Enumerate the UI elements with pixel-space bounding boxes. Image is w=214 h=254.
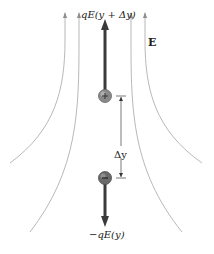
separation-dimension <box>116 96 126 178</box>
arrowhead-icon <box>143 12 147 18</box>
negative-charge <box>99 172 112 185</box>
field-label: E <box>148 36 156 49</box>
separation-label: Δy <box>114 149 127 160</box>
field-line-inner-left <box>30 13 79 232</box>
dipole-field-svg <box>0 0 214 254</box>
field-line-outer-left <box>10 13 65 163</box>
dipole-diagram: qE(y + Δy) E Δy −qE(y) <box>0 0 214 254</box>
top-force-arrow <box>101 19 109 90</box>
bottom-force-arrow <box>101 184 109 227</box>
top-force-label: qE(y + Δy) <box>81 9 136 20</box>
positive-charge <box>99 90 112 103</box>
field-line-inner-right <box>131 13 182 232</box>
bottom-force-label: −qE(y) <box>89 229 125 240</box>
arrowhead-icon <box>63 12 67 18</box>
